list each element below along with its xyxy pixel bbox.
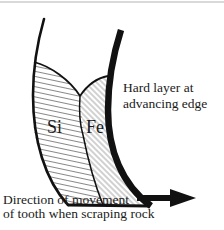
si-label: Si <box>47 118 62 136</box>
direction-annotation: Direction of movement of tooth when scra… <box>3 193 154 221</box>
hard-layer-line2: advancing edge <box>123 97 207 113</box>
hard-layer-annotation: Hard layer at advancing edge <box>123 81 207 113</box>
fe-label: Fe <box>86 118 104 136</box>
hard-layer-line1: Hard layer at <box>123 81 207 97</box>
direction-line1: Direction of movement <box>3 193 154 207</box>
direction-line2: of tooth when scraping rock <box>3 207 154 221</box>
